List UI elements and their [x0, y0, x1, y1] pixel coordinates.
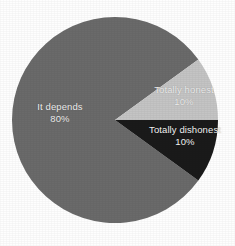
pie-chart-figure: It depends 80% Totally honest 10% Totall… — [0, 0, 235, 246]
pie-slices — [12, 17, 218, 223]
pie-chart-canvas — [0, 0, 235, 246]
